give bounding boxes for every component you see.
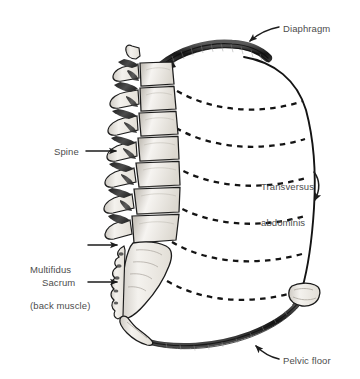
label-multifidus-line1: Multifidus <box>30 264 90 276</box>
anatomy-diagram-root: Diaphragm Spine Transversus abdominis Mu… <box>0 0 360 379</box>
label-transversus-line2: abdominis <box>261 217 314 229</box>
label-pelvic-floor: Pelvic floor <box>283 355 331 367</box>
label-multifidus-line2: (back muscle) <box>30 300 90 312</box>
label-spine: Spine <box>54 146 79 158</box>
label-transversus-line1: Transversus <box>261 181 314 193</box>
label-transversus-abdominis: Transversus abdominis <box>261 157 314 253</box>
label-sacrum: Sacrum <box>42 277 75 289</box>
pubic-bone <box>289 283 320 306</box>
label-diaphragm: Diaphragm <box>283 23 330 35</box>
